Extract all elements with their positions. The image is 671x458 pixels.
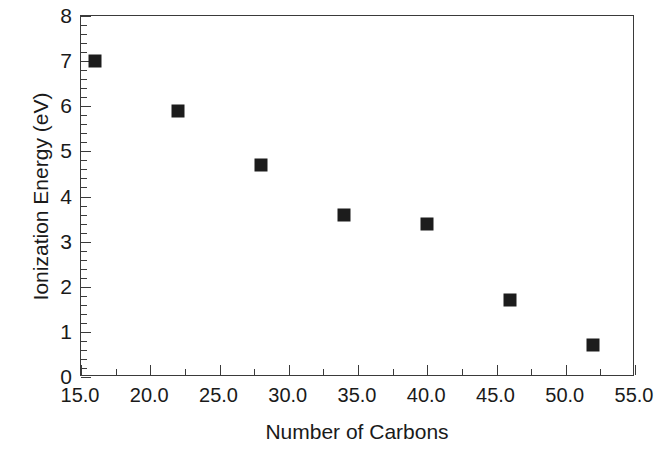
y-axis-tick-label: 8 [60,5,72,26]
x-axis-tick-label: 25.0 [199,385,238,405]
y-axis-tick-major [81,106,91,107]
chart-figure: 012345678 15.020.025.030.035.040.045.050… [0,0,671,458]
y-axis-tick-minor [81,52,87,53]
x-axis-tick-label: 55.0 [615,385,654,405]
y-axis-tick-minor [81,124,87,125]
y-axis-tick-minor [81,133,87,134]
y-axis-tick-label: 6 [60,95,72,116]
data-point-marker [88,55,101,68]
y-axis-tick-minor [81,43,87,44]
y-axis-tick-minor [81,305,87,306]
y-axis-tick-minor [81,341,87,342]
x-axis-tick-minor [393,369,394,375]
y-axis-tick-major [81,242,91,243]
y-axis-tick-minor [81,25,87,26]
y-axis-tick-minor [81,251,87,252]
y-axis-tick-label: 7 [60,50,72,71]
y-axis-tick-label: 5 [60,140,72,161]
y-axis-tick-minor [81,34,87,35]
y-axis-tick-major [81,16,91,17]
x-axis-tick-major [358,365,359,375]
y-axis-tick-minor [81,88,87,89]
y-axis-tick-minor [81,206,87,207]
y-axis-tick-minor [81,142,87,143]
y-axis-tick-minor [81,215,87,216]
x-axis-tick-major [427,365,428,375]
y-axis-tick-major [81,332,91,333]
x-axis-tick-label: 50.0 [545,385,584,405]
y-axis-tick-label: 4 [60,185,72,206]
data-point-marker [587,339,600,352]
x-axis-tick-major [289,365,290,375]
x-axis-tick-minor [531,369,532,375]
x-axis-tick-major [566,365,567,375]
x-axis-title: Number of Carbons [80,421,634,442]
y-axis-tick-minor [81,224,87,225]
x-axis-tick-label: 35.0 [338,385,377,405]
data-point-marker [171,104,184,117]
y-axis-tick-major [81,151,91,152]
x-axis-tick-minor [462,369,463,375]
x-axis-tick-label: 45.0 [476,385,515,405]
x-axis-tick-minor [185,369,186,375]
y-axis-tick-minor [81,169,87,170]
data-point-marker [338,208,351,221]
y-axis-tick-minor [81,350,87,351]
x-axis-tick-label: 40.0 [407,385,446,405]
plot-frame [80,15,634,376]
x-axis-tick-minor [254,369,255,375]
y-axis-tick-label: 3 [60,230,72,251]
y-axis-tick-minor [81,187,87,188]
x-axis-tick-minor [323,369,324,375]
y-axis-tick-minor [81,278,87,279]
y-axis-tick-major [81,287,91,288]
x-axis-tick-major [635,365,636,375]
y-axis-title: Ionization Energy (eV) [30,0,51,397]
x-axis-tick-major [150,365,151,375]
y-axis-tick-minor [81,296,87,297]
plot-area [81,16,633,375]
y-axis-tick-minor [81,79,87,80]
x-axis-tick-label: 30.0 [268,385,307,405]
y-axis-tick-minor [81,260,87,261]
x-axis-tick-major [81,365,82,375]
y-axis-tick-minor [81,314,87,315]
y-axis-tick-minor [81,323,87,324]
y-axis-tick-minor [81,233,87,234]
x-axis-tick-minor [116,369,117,375]
x-axis-tick-label: 20.0 [130,385,169,405]
data-point-marker [504,294,517,307]
y-axis-tick-minor [81,115,87,116]
x-axis-tick-major [497,365,498,375]
x-axis-tick-minor [600,369,601,375]
y-axis-tick-minor [81,178,87,179]
y-axis-tick-label: 2 [60,275,72,296]
y-axis-tick-minor [81,160,87,161]
y-axis-tick-major [81,197,91,198]
y-axis-tick-label: 1 [60,320,72,341]
y-axis-tick-minor [81,269,87,270]
x-axis-tick-labels: 15.020.025.030.035.040.045.050.055.0 [80,385,634,411]
y-axis-tick-major [81,377,91,378]
data-point-marker [421,217,434,230]
x-axis-tick-major [220,365,221,375]
y-axis-tick-minor [81,359,87,360]
data-point-marker [255,158,268,171]
x-axis-tick-label: 15.0 [61,385,100,405]
y-axis-tick-minor [81,70,87,71]
y-axis-tick-minor [81,97,87,98]
